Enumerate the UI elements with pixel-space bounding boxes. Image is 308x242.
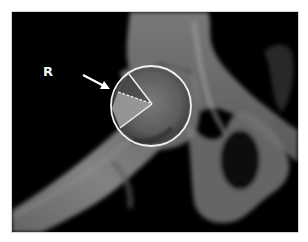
arrow-icon (83, 75, 110, 89)
soft-tissue (264, 45, 294, 113)
side-marker-label: R (43, 64, 53, 79)
xray-image: R (12, 12, 298, 232)
hip-radiograph (12, 12, 298, 232)
